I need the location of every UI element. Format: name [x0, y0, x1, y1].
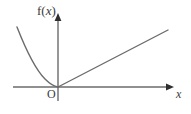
y-axis-label-prefix: f(	[37, 3, 46, 18]
x-axis-arrowhead	[166, 84, 174, 91]
graph-canvas	[0, 0, 191, 114]
y-axis-label-suffix: )	[51, 3, 55, 18]
curve-linear-branch	[58, 30, 168, 87]
y-axis-label: f(x)	[37, 4, 56, 17]
function-graph-figure: f(x) O x	[0, 0, 191, 114]
origin-label: O	[47, 88, 56, 100]
x-axis-label: x	[176, 88, 181, 100]
curve-decaying-branch	[17, 27, 58, 87]
